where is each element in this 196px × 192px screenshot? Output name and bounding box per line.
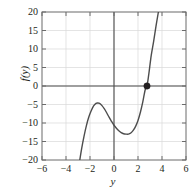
x-tick-label: 6 — [184, 164, 189, 174]
y-tick-label: −5 — [27, 100, 38, 110]
y-tick-label: −20 — [22, 155, 38, 165]
x-tick-label: −2 — [85, 164, 96, 174]
x-tick-label: −4 — [61, 164, 72, 174]
x-axis-label: y — [111, 176, 116, 187]
y-tick-label: −10 — [22, 118, 38, 128]
figure-container: −20−15−10−505101520 −6−4−20246 y f(y) — [0, 0, 196, 192]
y-tick-label: 15 — [28, 26, 38, 36]
x-tick-label: 0 — [112, 164, 117, 174]
x-tick-label: 4 — [160, 164, 165, 174]
x-tick-label: −6 — [37, 164, 48, 174]
y-axis-label: f(y) — [19, 52, 30, 96]
x-tick-label: 2 — [136, 164, 141, 174]
y-tick-label: 5 — [33, 63, 38, 73]
zero-axes — [42, 12, 186, 160]
y-tick-label: −15 — [22, 137, 38, 147]
y-tick-label: 10 — [28, 44, 38, 54]
y-tick-label: 20 — [28, 7, 38, 17]
y-tick-label: 0 — [33, 81, 38, 91]
data-markers — [144, 83, 150, 89]
